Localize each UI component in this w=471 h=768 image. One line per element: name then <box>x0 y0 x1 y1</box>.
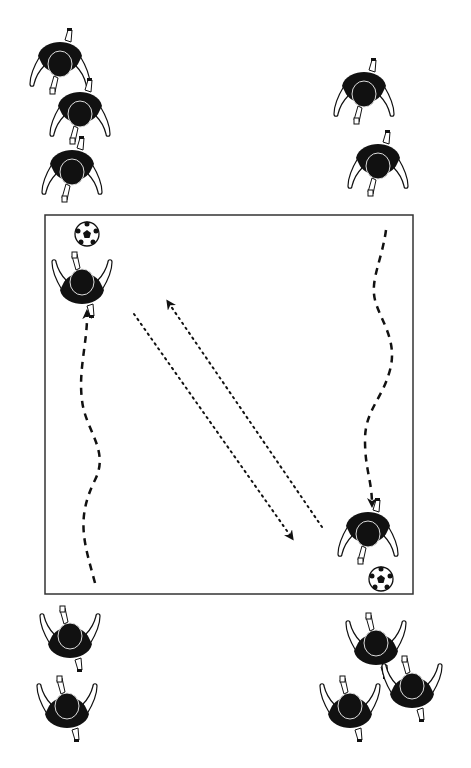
player-group-bottom-left <box>37 606 100 742</box>
player-icon <box>42 136 102 202</box>
pass-path-up <box>168 302 322 527</box>
soccer-ball-icon <box>369 567 393 592</box>
player-icon <box>334 58 394 124</box>
dribble-path-left <box>81 312 100 583</box>
player-icon <box>348 130 408 196</box>
player-icon <box>50 78 110 144</box>
active-player-icon <box>338 498 398 564</box>
player-group-bottom-right <box>320 613 442 742</box>
pass-path-down <box>134 314 292 538</box>
player-group-top-left <box>30 28 110 202</box>
dribble-path-right <box>365 230 392 505</box>
active-player-icon <box>52 252 112 318</box>
player-group-top-right <box>334 58 408 196</box>
player-icon <box>382 656 442 722</box>
player-icon <box>30 28 90 94</box>
player-icon <box>346 613 406 679</box>
soccer-drill-diagram <box>0 0 471 768</box>
soccer-ball-icon <box>75 222 99 247</box>
player-icon <box>37 676 97 742</box>
player-icon <box>320 676 380 742</box>
player-icon <box>40 606 100 672</box>
